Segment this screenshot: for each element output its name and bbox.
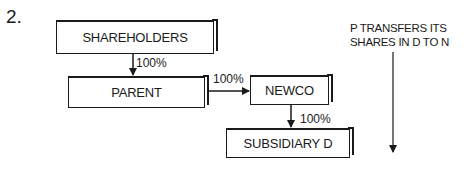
node-parent-label: PARENT xyxy=(111,85,162,100)
transfer-caption-line2: SHARES IN D TO N xyxy=(350,35,449,49)
node-shareholders: SHAREHOLDERS xyxy=(56,20,214,54)
node-newco-label: NEWCO xyxy=(265,83,314,98)
transfer-caption-line1: P TRANSFERS ITS xyxy=(350,21,449,35)
node-shareholders-label: SHAREHOLDERS xyxy=(82,30,187,45)
transfer-caption: P TRANSFERS ITS SHARES IN D TO N xyxy=(350,21,449,49)
node-newco: NEWCO xyxy=(250,75,329,105)
edge-label-shareholders-parent: 100% xyxy=(136,56,167,70)
edge-label-newco-subsidiary: 100% xyxy=(300,112,331,126)
node-parent: PARENT xyxy=(68,76,205,108)
edge-label-parent-newco: 100% xyxy=(213,72,244,86)
node-subsidiary-d-label: SUBSIDIARY D xyxy=(244,136,333,151)
node-subsidiary-d: SUBSIDIARY D xyxy=(226,128,350,158)
